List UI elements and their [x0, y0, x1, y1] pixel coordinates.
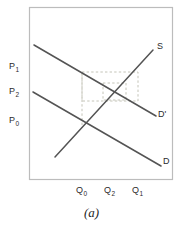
figure-container: P1 P2 P0 Q0 Q2 Q1 S D' D (a) — [0, 0, 188, 234]
quantity-label-q2: Q2 — [104, 186, 115, 195]
price-label-p2: P2 — [9, 87, 19, 96]
price-label-p0: P0 — [9, 116, 19, 125]
quantity-label-q1: Q1 — [132, 186, 143, 195]
figure-caption: (a) — [84, 206, 99, 219]
quantity-label-q0: Q0 — [76, 186, 87, 195]
demand-shifted-curve-label: D' — [158, 110, 166, 119]
supply-curve-label: S — [157, 42, 163, 51]
price-label-p1: P1 — [9, 62, 19, 71]
demand-curve-label: D — [163, 157, 170, 166]
plot-frame — [30, 8, 173, 180]
